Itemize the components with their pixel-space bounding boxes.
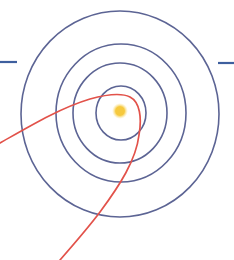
background [0,0,234,260]
orbit-diagram [0,0,234,260]
sun-icon [112,103,128,119]
